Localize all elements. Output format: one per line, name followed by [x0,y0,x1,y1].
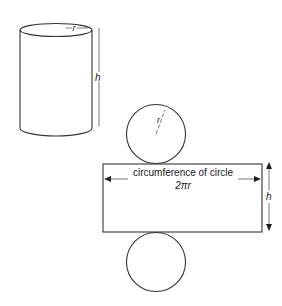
top-circle-radius-label: r [157,115,161,125]
cylinder-bottom-arc [20,128,92,136]
net-rectangle: circumference of circle 2πr h [103,162,272,232]
bottom-circle [127,233,186,292]
height-arrow-up-head [266,162,272,169]
net-top-circle: r [127,105,186,164]
net-bottom-circle [127,233,186,292]
cylinder: r h [20,23,101,136]
width-label: circumference of circle [133,167,233,178]
width-arrow-left-head [104,176,111,182]
width-arrow-right-head [254,176,261,182]
height-label: h [266,191,272,202]
cylinder-net-diagram: r h r circumference of circle 2πr h [0,0,282,306]
cylinder-height-label: h [95,72,101,83]
width-formula: 2πr [174,180,191,191]
height-arrow-down-head [266,224,272,231]
cylinder-top-ellipse [20,24,92,37]
